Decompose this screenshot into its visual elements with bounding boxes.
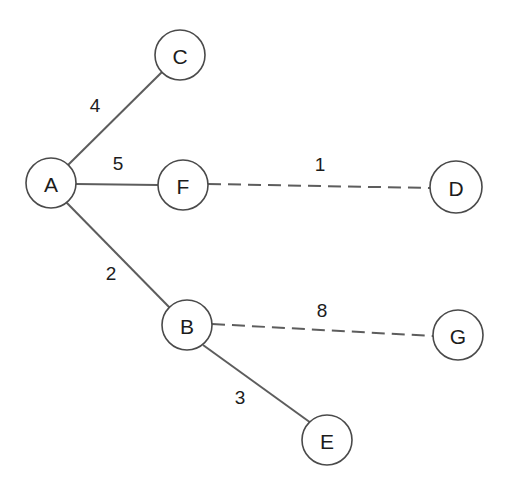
graph-canvas: 4 5 1 2 8 3 A C F D [0,0,505,495]
edge-weight-a-c: 4 [90,95,101,116]
node-g-label: G [450,325,466,348]
node-e[interactable]: E [302,415,352,465]
edge-weight-b-e: 3 [235,387,246,408]
node-d[interactable]: D [430,161,482,213]
node-g[interactable]: G [433,310,483,360]
edge-weight-f-d: 1 [315,154,326,175]
edge-b-e[interactable] [203,345,311,423]
node-d-label: D [448,177,463,200]
edge-weight-a-b: 2 [106,263,117,284]
edge-a-f[interactable] [76,184,158,185]
edge-a-b[interactable] [66,202,170,308]
edges-layer [66,72,433,423]
edge-a-c[interactable] [68,72,162,165]
node-a-label: A [44,173,58,196]
graph-diagram: 4 5 1 2 8 3 A C F D [0,0,505,495]
node-f-label: F [177,175,190,198]
edge-weight-b-g: 8 [317,300,328,321]
edge-weight-a-f: 5 [113,153,124,174]
node-a[interactable]: A [26,158,76,208]
edge-labels-layer: 4 5 1 2 8 3 [90,95,328,408]
node-b[interactable]: B [162,300,212,350]
edge-b-g[interactable] [212,324,433,336]
node-c-label: C [172,45,187,68]
edge-f-d[interactable] [208,184,430,188]
node-e-label: E [320,430,334,453]
node-b-label: B [180,315,194,338]
node-f[interactable]: F [158,160,208,210]
node-c[interactable]: C [155,30,205,80]
